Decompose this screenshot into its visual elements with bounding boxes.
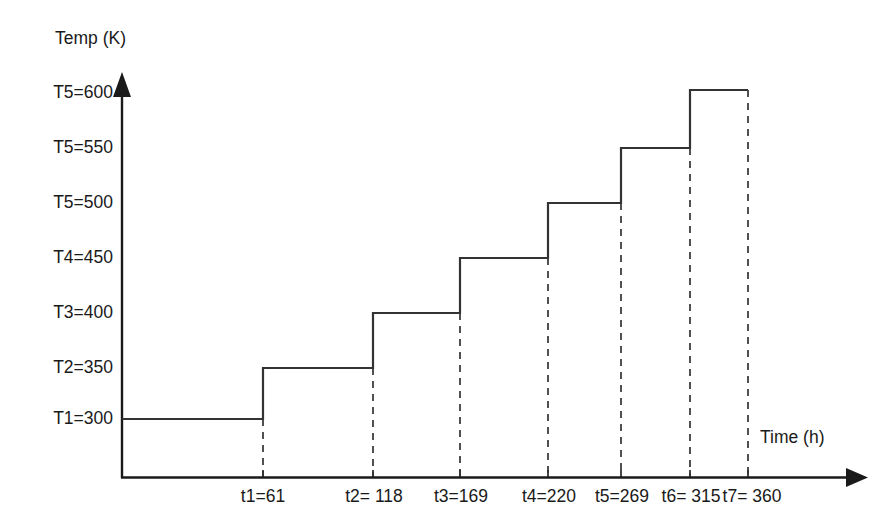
temperature-step-profile xyxy=(122,90,748,419)
x-axis-tick-label: t4=220 xyxy=(522,488,576,506)
y-axis-tick-label: T5=500 xyxy=(0,194,113,212)
x-axis-tick-label: t3=169 xyxy=(434,488,488,506)
x-axis-tick-label: t7= 360 xyxy=(723,488,782,506)
x-axis-title: Time (h) xyxy=(760,429,825,447)
x-axis-tick-label: t6= 315 xyxy=(662,488,721,506)
step-chart: Temp (K) Time (h) T5=600 T5=550 T5=500 T… xyxy=(0,0,889,526)
y-axis-tick-label: T5=550 xyxy=(0,139,113,157)
y-axis-title: Temp (K) xyxy=(55,30,126,48)
y-axis xyxy=(113,72,131,478)
x-axis-tick-label: t1=61 xyxy=(241,488,285,506)
y-axis-tick-label: T4=450 xyxy=(0,249,113,267)
x-axis-ticks xyxy=(263,470,748,477)
x-axis-tick-label: t5=269 xyxy=(595,488,649,506)
x-axis xyxy=(121,468,868,487)
y-axis-tick-label: T2=350 xyxy=(0,359,113,377)
y-axis-tick-label: T5=600 xyxy=(0,84,113,102)
y-axis-tick-label: T1=300 xyxy=(0,410,113,428)
x-axis-tick-label: t2= 118 xyxy=(345,488,403,506)
chart-plot-area xyxy=(0,0,889,526)
y-axis-tick-label: T3=400 xyxy=(0,304,113,322)
